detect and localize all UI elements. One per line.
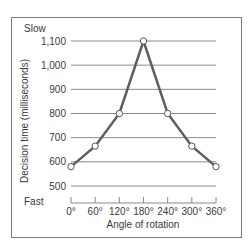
x-tick-label: 360° xyxy=(206,206,227,217)
data-point-marker xyxy=(140,38,146,44)
y-tick-label: 700 xyxy=(49,132,66,143)
data-point-marker xyxy=(213,163,219,169)
y-axis-tick-labels: 5006007008009001,0001,100 xyxy=(41,36,66,192)
y-axis-label: Decision time (milliseconds) xyxy=(19,59,30,183)
y-tick-label: 800 xyxy=(49,108,66,119)
x-axis: 0°60°120°180°240°300°360° xyxy=(66,197,226,217)
data-series xyxy=(68,38,219,170)
slow-annotation: Slow xyxy=(24,23,46,34)
gridlines xyxy=(71,41,216,186)
x-tick-label: 0° xyxy=(66,206,76,217)
line-chart: 5006007008009001,0001,100 0°60°120°180°2… xyxy=(0,0,249,252)
x-tick-label: 300° xyxy=(181,206,202,217)
data-point-marker xyxy=(189,143,195,149)
y-tick-label: 500 xyxy=(49,181,66,192)
x-tick-label: 180° xyxy=(133,206,154,217)
data-point-marker xyxy=(116,110,122,116)
fast-annotation: Fast xyxy=(24,196,44,207)
data-point-marker xyxy=(92,143,98,149)
x-tick-label: 120° xyxy=(109,206,130,217)
y-tick-label: 1,000 xyxy=(41,60,66,71)
data-point-marker xyxy=(164,110,170,116)
x-tick-label: 60° xyxy=(88,206,103,217)
y-tick-label: 900 xyxy=(49,84,66,95)
x-tick-label: 240° xyxy=(157,206,178,217)
data-point-marker xyxy=(68,163,74,169)
y-tick-label: 1,100 xyxy=(41,36,66,47)
y-tick-label: 600 xyxy=(49,156,66,167)
x-axis-label: Angle of rotation xyxy=(107,219,180,230)
